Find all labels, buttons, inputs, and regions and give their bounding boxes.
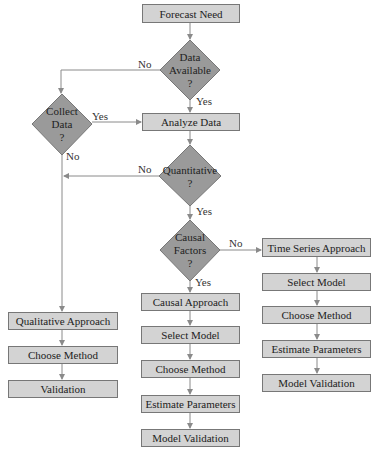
diamond-quantitative-label: Quantitative ? xyxy=(155,164,225,190)
text-line: ? xyxy=(160,257,220,270)
text-line: Quantitative xyxy=(155,164,225,177)
edge-label-data-available-no: No xyxy=(138,58,151,70)
edge-label-collect-data-yes: Yes xyxy=(92,110,108,122)
box-ca-estimate-parameters: Estimate Parameters xyxy=(141,395,240,413)
text-line: Data xyxy=(32,118,92,131)
box-ca-select-model: Select Model xyxy=(141,326,240,344)
text-line: Collect xyxy=(32,105,92,118)
diamond-data-available-label: Data Available ? xyxy=(160,51,220,90)
box-ts-choose-method: Choose Method xyxy=(262,306,371,324)
box-time-series-approach: Time Series Approach xyxy=(262,238,371,257)
text-line: Causal xyxy=(160,231,220,244)
box-ql-validation: Validation xyxy=(8,380,118,398)
box-ts-select-model: Select Model xyxy=(262,273,371,291)
text-line: Data xyxy=(160,51,220,64)
edge-label-data-available-yes: Yes xyxy=(196,95,212,107)
text-line: ? xyxy=(155,177,225,190)
box-analyze-data: Analyze Data xyxy=(142,113,240,131)
edge-label-collect-data-no: No xyxy=(66,150,79,162)
box-qualitative-approach: Qualitative Approach xyxy=(8,312,118,330)
diamond-collect-data-label: Collect Data ? xyxy=(32,105,92,144)
box-ts-model-validation: Model Validation xyxy=(262,374,371,392)
box-causal-approach: Causal Approach xyxy=(141,293,240,311)
edge-label-quantitative-yes: Yes xyxy=(196,205,212,217)
box-ca-choose-method: Choose Method xyxy=(141,360,240,378)
box-ts-estimate-parameters: Estimate Parameters xyxy=(262,340,371,358)
box-forecast-need: Forecast Need xyxy=(142,4,240,23)
box-ca-model-validation: Model Validation xyxy=(141,429,240,447)
diamond-causal-factors-label: Causal Factors ? xyxy=(160,231,220,270)
text-line: ? xyxy=(32,131,92,144)
text-line: ? xyxy=(160,77,220,90)
edge-label-quantitative-no: No xyxy=(138,163,151,175)
text-line: Factors xyxy=(160,244,220,257)
edge-label-causal-factors-no: No xyxy=(229,237,242,249)
edge-label-causal-factors-yes: Yes xyxy=(195,276,211,288)
box-ql-choose-method: Choose Method xyxy=(8,346,118,364)
text-line: Available xyxy=(160,64,220,77)
